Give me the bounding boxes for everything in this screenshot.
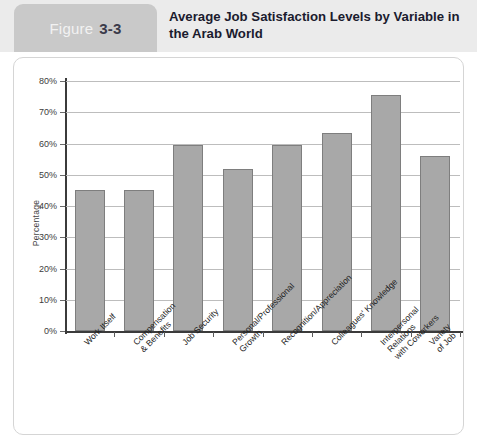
bar — [124, 190, 154, 331]
y-tick-mark — [60, 300, 65, 301]
figure-number-tab: Figure 3-3 — [14, 4, 157, 52]
chart-plot-wrapper: Percentage 0%10%20%30%40%50%60%70%80% Wo… — [14, 58, 465, 436]
y-tick-mark — [60, 331, 65, 332]
y-tick-label: 50% — [39, 170, 57, 180]
bar — [223, 169, 253, 332]
y-tick-label: 30% — [39, 232, 57, 242]
figure-header: Figure 3-3 Average Job Satisfaction Leve… — [0, 0, 477, 52]
y-tick-mark — [60, 112, 65, 113]
x-tick-mark — [114, 332, 115, 337]
figure-number: 3-3 — [99, 20, 121, 37]
figure-label: Figure — [50, 20, 94, 37]
plot-area: 0%10%20%30%40%50%60%70%80% Work ItselfCo… — [65, 81, 460, 331]
y-tick-label: 40% — [39, 201, 57, 211]
y-tick-label: 70% — [39, 107, 57, 117]
y-tick-label: 20% — [39, 264, 57, 274]
y-tick-mark — [60, 81, 65, 82]
x-tick-mark — [213, 332, 214, 337]
figure-title: Average Job Satisfaction Levels by Varia… — [157, 0, 477, 43]
y-tick-label: 10% — [39, 295, 57, 305]
y-tick-mark — [60, 206, 65, 207]
y-tick-label: 80% — [39, 76, 57, 86]
y-tick-mark — [60, 237, 65, 238]
bar — [75, 190, 105, 331]
y-tick-label: 0% — [44, 326, 57, 336]
chart-frame: Percentage 0%10%20%30%40%50%60%70%80% Wo… — [13, 57, 464, 435]
gridline — [66, 81, 460, 82]
y-tick-mark — [60, 175, 65, 176]
y-tick-label: 60% — [39, 139, 57, 149]
x-tick-mark — [361, 332, 362, 337]
x-tick-mark — [312, 332, 313, 337]
y-tick-mark — [60, 144, 65, 145]
bar — [173, 145, 203, 331]
y-axis-title: Percentage — [31, 178, 41, 268]
y-tick-mark — [60, 269, 65, 270]
